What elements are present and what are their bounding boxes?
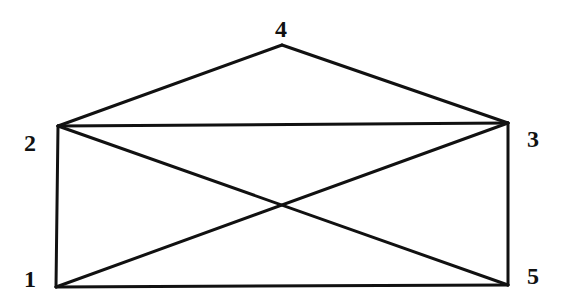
vertex-label-4: 4 xyxy=(275,16,287,42)
vertex-label-5: 5 xyxy=(527,263,539,289)
graph-edges xyxy=(56,45,508,287)
vertex-label-2: 2 xyxy=(24,130,36,156)
vertex-label-3: 3 xyxy=(527,126,539,152)
edge-4-3 xyxy=(282,45,508,123)
edge-2-4 xyxy=(58,45,282,126)
edge-2-3 xyxy=(58,123,508,126)
graph-diagram: 12345 xyxy=(0,0,567,307)
vertex-label-1: 1 xyxy=(24,266,36,292)
edge-1-2 xyxy=(56,126,58,287)
edge-1-5 xyxy=(56,285,508,287)
vertex-labels: 12345 xyxy=(24,16,539,292)
